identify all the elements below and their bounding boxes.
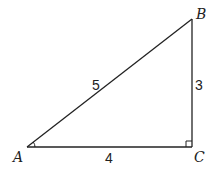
angle-arc-A: [33, 142, 35, 147]
side-label-AC: 4: [105, 150, 113, 166]
side-label-BC: 3: [195, 77, 203, 93]
side-label-AB: 5: [92, 77, 100, 93]
triangle-diagram: A B C 5 3 4: [0, 0, 216, 174]
vertex-label-C: C: [194, 149, 205, 165]
vertex-label-A: A: [11, 149, 23, 165]
right-angle-marker: [186, 141, 192, 147]
vertex-label-B: B: [195, 6, 206, 22]
side-AB: [27, 19, 192, 147]
